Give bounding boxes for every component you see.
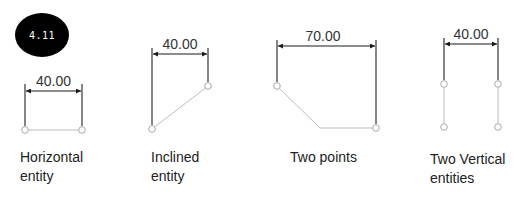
point-icon (495, 124, 502, 131)
figure-horizontal-entity: 40.00 (22, 73, 86, 133)
caption-line: Horizontal (20, 148, 83, 167)
point-icon (441, 81, 448, 88)
point-icon (79, 127, 86, 134)
point-icon (22, 127, 29, 134)
entity-line (155, 88, 206, 127)
figure-two-points: 70.00 (274, 28, 380, 131)
point-icon (373, 125, 380, 132)
figure-inclined-entity: 40.00 (149, 36, 212, 132)
dimension-value: 40.00 (36, 73, 71, 89)
dimension-value: 40.00 (162, 36, 197, 52)
caption-line: entities (430, 169, 505, 188)
point-icon (495, 81, 502, 88)
caption-line: Inclined (151, 148, 199, 167)
point-icon (149, 126, 156, 133)
caption-horizontal-entity: Horizontal entity (20, 148, 83, 186)
caption-line: entity (20, 167, 83, 186)
caption-line: Two points (290, 148, 357, 167)
caption-line: entity (151, 167, 199, 186)
caption-inclined-entity: Inclined entity (151, 148, 199, 186)
point-icon (274, 83, 281, 90)
point-icon (205, 83, 212, 90)
point-icon (441, 124, 448, 131)
entity-polyline (280, 89, 374, 129)
caption-two-vertical-entities: Two Vertical entities (430, 150, 505, 188)
caption-two-points: Two points (290, 148, 357, 167)
dimension-value: 40.00 (453, 26, 488, 42)
figure-two-vertical-entities: 40.00 (441, 26, 502, 130)
caption-line: Two Vertical (430, 150, 505, 169)
dimension-value: 70.00 (305, 28, 340, 44)
